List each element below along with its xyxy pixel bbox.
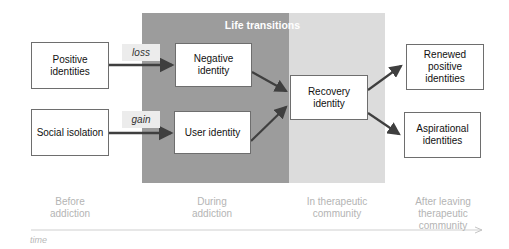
renewed-positive-identities-node: Renewed positive identities [406, 44, 484, 90]
time-axis-label: time [30, 235, 47, 245]
social-isolation-node: Social isolation [31, 109, 109, 156]
gain-label: gain [122, 111, 160, 128]
recovery-identity-node: Recovery identity [290, 75, 368, 120]
negative-identity-node: Negative identity [175, 43, 252, 87]
positive-identities-node: Positive identities [31, 42, 109, 89]
phase-after-leaving: After leaving therapeutic community [400, 196, 486, 232]
loss-label: loss [122, 44, 160, 61]
phase-during-addiction: During addiction [172, 196, 252, 220]
phase-in-therapeutic-community: In therapeutic community [289, 196, 385, 220]
life-transitions-title: Life transitions [200, 19, 325, 31]
during-addiction-region [142, 13, 289, 183]
phase-before-addiction: Before addiction [30, 196, 110, 220]
aspirational-identities-node: Aspirational identities [404, 112, 481, 158]
user-identity-node: User identity [174, 111, 251, 154]
